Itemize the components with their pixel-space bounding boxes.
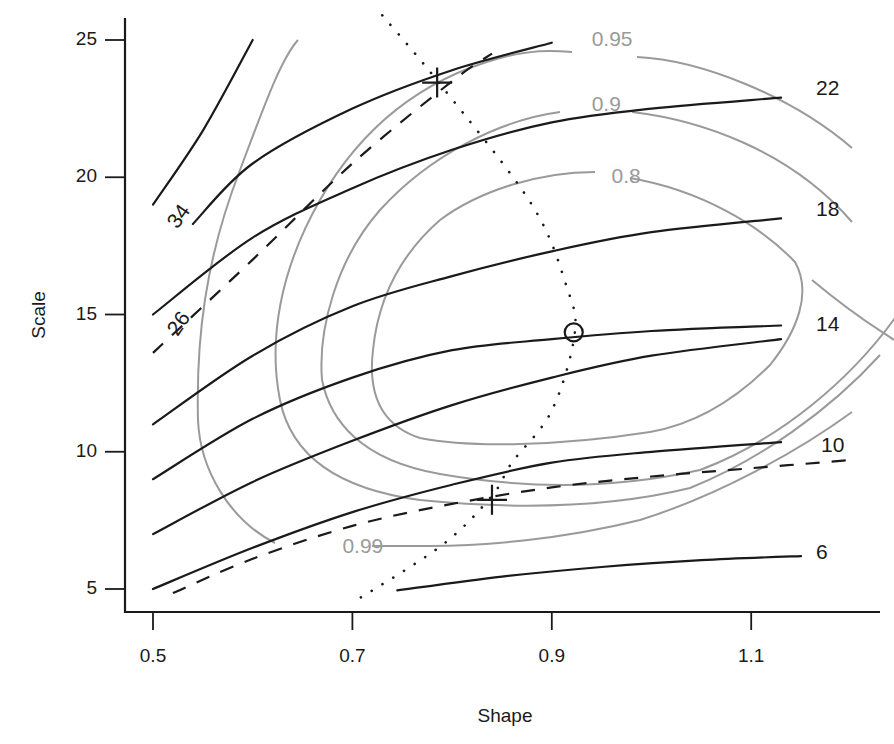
y-axis-title: Scale <box>28 291 49 339</box>
dark-contour-line <box>153 339 781 534</box>
x-tick-label: 0.7 <box>339 645 365 666</box>
contour-label: 10 <box>821 433 844 456</box>
y-axis: 510152025 Scale <box>28 18 125 613</box>
contour-label: 14 <box>816 312 840 335</box>
y-tick-label: 20 <box>76 165 97 186</box>
dark-contour-line <box>153 326 781 480</box>
confidence-label: 0.9 <box>592 92 621 115</box>
y-tick-label: 5 <box>86 577 97 598</box>
confidence-label: 0.95 <box>592 27 633 50</box>
dotted-curve <box>352 15 575 602</box>
contour-0.8 <box>372 172 802 444</box>
y-tick-label: 25 <box>76 28 97 49</box>
contour-label: 22 <box>816 76 839 99</box>
contour-0.99 <box>198 40 894 546</box>
dark-contour-line <box>153 40 253 205</box>
contour-label: 6 <box>816 540 828 563</box>
x-axis: 0.50.70.91.1 Shape <box>124 612 880 726</box>
confidence-label: 0.8 <box>612 164 641 187</box>
contour-label: 34 <box>162 200 194 233</box>
dark-contours <box>153 40 801 590</box>
dark-contour-line <box>153 98 781 315</box>
confidence-label: 0.99 <box>342 534 383 557</box>
x-tick-label: 0.5 <box>140 645 166 666</box>
dark-contour-line <box>153 442 781 589</box>
contour-label: 18 <box>816 197 839 220</box>
dark-contour-line <box>153 218 781 424</box>
dark-contour-line <box>397 556 801 590</box>
x-tick-label: 0.9 <box>539 645 565 666</box>
dark-contour-line <box>193 43 552 224</box>
contour-chart: 61014182234260.80.90.950.99 510152025 Sc… <box>0 0 894 744</box>
y-tick-label: 15 <box>76 303 97 324</box>
plus-marker <box>477 485 507 515</box>
contour-0.9 <box>321 112 894 485</box>
y-tick-label: 10 <box>76 440 97 461</box>
x-axis-title: Shape <box>478 705 533 726</box>
x-tick-label: 1.1 <box>738 645 764 666</box>
contour-0.95 <box>276 51 880 506</box>
contour-label: 26 <box>162 307 194 339</box>
dashed-contour-line <box>173 460 851 593</box>
grey-contours <box>198 40 894 546</box>
